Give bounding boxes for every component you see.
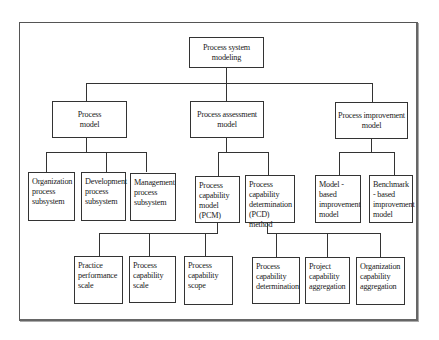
connector: [205, 233, 206, 256]
connector: [394, 152, 395, 175]
node-process-capability-scale: Process capability scale: [129, 256, 176, 303]
connector: [86, 83, 87, 101]
connector: [218, 152, 269, 153]
node-process-capability-model-pcm: Process capability model (PCM): [195, 176, 240, 223]
node-label: Process capability model (PCM): [199, 181, 237, 221]
connector: [146, 152, 147, 172]
connector: [99, 233, 218, 234]
node-process-capability-scope: Process capability scope: [184, 256, 233, 305]
node-organization-capability-aggregation: Organization capability aggregation: [356, 257, 405, 305]
connector: [86, 138, 87, 153]
node-label: Process improvement model: [336, 111, 407, 131]
node-label: Process model: [70, 110, 110, 130]
connector: [149, 233, 150, 256]
node-label: Development process subsystem: [85, 177, 123, 207]
connector: [106, 152, 107, 172]
connector: [371, 139, 372, 153]
node-process-assessment-model: Process assessment model: [190, 101, 264, 138]
node-process-model: Process model: [52, 101, 127, 138]
node-label: Organization capability aggregation: [360, 262, 402, 292]
node-label: Model - based improvement model: [319, 180, 358, 220]
node-label: Process capability scope: [188, 261, 230, 291]
node-pcd-method: Process capability determination (PCD) m…: [245, 175, 295, 223]
node-project-capability-aggregation: Project capability aggregation: [305, 257, 350, 304]
node-practice-performance-scale: Practice performance scale: [74, 256, 123, 304]
node-organization-process-subsystem: Organization process subsystem: [28, 172, 75, 221]
connector: [339, 152, 395, 153]
connector: [339, 152, 340, 175]
connector: [99, 233, 100, 256]
connector: [380, 233, 381, 257]
node-label: Process system modeling: [190, 43, 263, 63]
connector: [226, 138, 227, 153]
node-label: Process assessment model: [191, 110, 263, 130]
node-process-capability-determination: Process capability determination: [252, 257, 300, 304]
node-management-process-subsystem: Management process subsystem: [130, 173, 176, 221]
node-label: Process capability determination (PCD) m…: [249, 180, 292, 230]
connector: [327, 233, 328, 257]
node-development-process-subsystem: Development process subsystem: [81, 172, 126, 221]
connector: [218, 152, 219, 176]
connector: [46, 152, 47, 172]
node-label: Organization process subsystem: [32, 177, 72, 207]
connector: [276, 233, 277, 257]
connector: [226, 68, 227, 101]
node-label: Benchmark - based improvement model: [373, 180, 410, 220]
connector: [372, 83, 373, 102]
node-benchmark-based-improvement-model: Benchmark - based improvement model: [369, 175, 413, 223]
connector: [46, 152, 147, 153]
node-label: Management process subsystem: [134, 178, 173, 208]
connector: [267, 233, 381, 234]
node-label: Process capability scale: [133, 261, 173, 291]
node-label: Project capability aggregation: [309, 262, 347, 292]
node-label: Process capability determination: [256, 262, 297, 292]
node-process-improvement-model: Process improvement model: [335, 102, 408, 139]
connector: [268, 152, 269, 175]
node-process-system-modeling: Process system modeling: [189, 37, 264, 68]
node-label: Practice performance scale: [78, 261, 120, 291]
node-model-based-improvement-model: Model - based improvement model: [315, 175, 361, 223]
connector: [86, 83, 373, 84]
